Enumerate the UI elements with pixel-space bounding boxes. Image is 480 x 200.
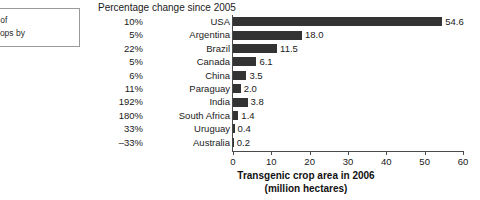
x-axis-tick-label: 60 [443,156,480,167]
caption-box: area of ed crops by [0,8,80,47]
category-label: Australia [146,136,230,149]
bar [233,124,235,133]
category-label: Uruguay [146,122,230,135]
bar-value-label: 18.0 [305,28,324,41]
bar-value-label: 54.6 [445,15,464,28]
x-axis-tick [348,151,349,155]
bar [233,111,238,120]
category-label: South Africa [146,109,230,122]
x-axis-tick [271,151,272,155]
x-axis-tick-label: 0 [213,156,253,167]
percent-change-value: 11% [96,82,143,95]
bar-row: 22%Brazil11.5 [96,42,480,55]
x-axis-title: Transgenic crop area in 2006 (million he… [156,170,456,195]
category-label: Canada [146,55,230,68]
bar-row: 180%South Africa1.4 [96,109,480,122]
bar-row: 6%China3.5 [96,69,480,82]
bar [233,98,248,107]
x-axis-title-sub: (million hectares) [156,183,456,196]
category-label: Argentina [146,28,230,41]
bar-value-label: 2.0 [244,82,257,95]
x-axis-tick [233,151,234,155]
percent-change-value: 6% [96,69,143,82]
x-axis-tick [310,151,311,155]
category-label: India [146,95,230,108]
bar-value-label: 6.1 [259,55,272,68]
bar-row: 33%Uruguay0.4 [96,122,480,135]
x-axis-tick-label: 30 [328,156,368,167]
percent-change-value: 5% [96,28,143,41]
bar-value-label: 3.8 [251,95,264,108]
percent-change-value: 192% [96,95,143,108]
category-label: USA [146,15,230,28]
bar [233,71,246,80]
bar-row: –33%Australia0.2 [96,136,480,149]
bar-value-label: 11.5 [280,42,298,55]
plot-area: 10%USA54.65%Argentina18.022%Brazil11.55%… [96,15,480,151]
bar-value-label: 0.2 [237,136,250,149]
bar-value-label: 0.4 [238,122,251,135]
percent-change-value: –33% [96,136,143,149]
bar [233,31,302,40]
bar-value-label: 3.5 [249,69,262,82]
caption-line-2: ed crops by [0,27,73,40]
bar [233,44,277,53]
bar [233,57,256,66]
x-axis-tick [425,151,426,155]
bar [233,84,241,93]
bar [233,138,234,147]
percent-change-value: 22% [96,42,143,55]
category-label: China [146,69,230,82]
category-label: Brazil [146,42,230,55]
x-axis-tick [386,151,387,155]
bar-row: 5%Argentina18.0 [96,28,480,41]
x-axis-tick-label: 20 [290,156,330,167]
percent-change-value: 33% [96,122,143,135]
bar-row: 192%India3.8 [96,95,480,108]
bar-value-label: 1.4 [241,109,254,122]
x-axis-title-main: Transgenic crop area in 2006 [156,170,456,183]
bar-row: 5%Canada6.1 [96,55,480,68]
category-label: Paraguay [146,82,230,95]
x-axis-tick [463,151,464,155]
percentage-change-header: Percentage change since 2005 [98,2,236,13]
percent-change-value: 10% [96,15,143,28]
bar-chart: Percentage change since 2005 10%USA54.65… [96,0,480,200]
percent-change-value: 180% [96,109,143,122]
percent-change-value: 5% [96,55,143,68]
bar-row: 10%USA54.6 [96,15,480,28]
x-axis-tick-label: 10 [251,156,291,167]
caption-line-1: area of [0,14,73,27]
bar [233,17,442,26]
bar-row: 11%Paraguay2.0 [96,82,480,95]
x-axis-tick-label: 50 [405,156,445,167]
x-axis-tick-label: 40 [366,156,406,167]
